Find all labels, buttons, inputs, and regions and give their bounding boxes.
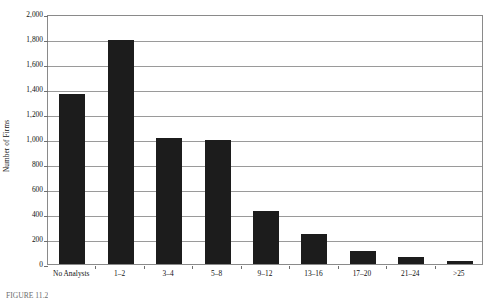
x-axis-tick-mark xyxy=(338,266,339,269)
figure-caption: FIGURE 11.2 xyxy=(6,292,48,303)
y-axis-tick-label: 200 xyxy=(32,236,43,243)
x-axis-tick-labels: No Analysts1–23–45–89–1213–1617–2021–24>… xyxy=(47,266,483,282)
bar-series xyxy=(48,16,482,264)
x-axis-tick-mark xyxy=(95,266,96,269)
x-axis-tick-label: 3–4 xyxy=(144,270,192,277)
bar xyxy=(108,40,134,264)
x-axis-tick-mark xyxy=(435,266,436,269)
bar xyxy=(205,140,231,264)
y-axis-tick-label: 2,000 xyxy=(26,11,43,18)
x-axis-tick-label: No Analysts xyxy=(47,270,95,277)
y-axis-tick-label: 1,600 xyxy=(26,61,43,68)
y-axis-title-label: Number of Firms xyxy=(3,120,11,172)
bar xyxy=(350,251,376,264)
bar xyxy=(398,257,424,265)
y-axis-tick-label: 400 xyxy=(32,211,43,218)
figure-container: Number of Firms 02004006008001,0001,2001… xyxy=(0,0,498,303)
x-axis-tick-mark xyxy=(289,266,290,269)
plot-area xyxy=(47,15,483,265)
x-axis-tick-mark xyxy=(241,266,242,269)
bar xyxy=(253,211,279,264)
x-axis-tick-label: 1–2 xyxy=(95,270,143,277)
y-axis-tick-labels: 02004006008001,0001,2001,4001,6001,8002,… xyxy=(14,10,46,270)
y-axis-tick-label: 1,800 xyxy=(26,36,43,43)
x-axis-tick-mark xyxy=(386,266,387,269)
bar xyxy=(447,261,473,264)
bar xyxy=(301,234,327,264)
x-axis-tick-label: 13–16 xyxy=(289,270,337,277)
x-axis-tick-mark xyxy=(144,266,145,269)
x-axis-tick-label: 9–12 xyxy=(241,270,289,277)
x-axis-tick-label: 17–20 xyxy=(338,270,386,277)
y-axis-tick-label: 0 xyxy=(39,261,43,268)
x-axis-tick-mark xyxy=(192,266,193,269)
y-axis-title: Number of Firms xyxy=(0,96,14,196)
y-axis-tick-label: 1,200 xyxy=(26,111,43,118)
x-axis-tick-label: 5–8 xyxy=(192,270,240,277)
bar xyxy=(156,138,182,264)
bar xyxy=(59,94,85,264)
y-axis-tick-label: 1,000 xyxy=(26,136,43,143)
x-axis-tick-label: >25 xyxy=(435,270,483,277)
x-axis-tick-label: 21–24 xyxy=(386,270,434,277)
y-axis-tick-label: 1,400 xyxy=(26,86,43,93)
y-axis-tick-label: 800 xyxy=(32,161,43,168)
y-axis-tick-label: 600 xyxy=(32,186,43,193)
